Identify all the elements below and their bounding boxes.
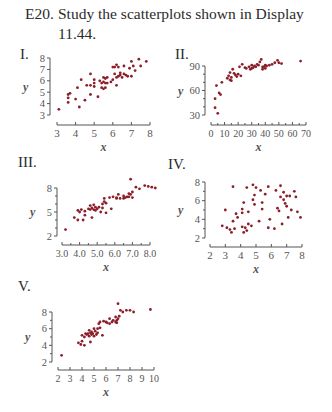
data-point [267, 185, 270, 188]
data-point [132, 311, 135, 314]
scatterplot-ii: 306090y010203040506070x [176, 58, 311, 154]
data-point [78, 106, 81, 109]
data-point [129, 178, 132, 181]
data-point [216, 112, 219, 115]
y-tick-label: 3 [40, 110, 45, 121]
y-tick-label: 4 [40, 98, 46, 109]
data-point [115, 197, 118, 200]
data-point [88, 329, 91, 332]
y-axis-label: y [176, 84, 184, 98]
x-tick-label: 4 [238, 249, 244, 261]
data-point [99, 326, 102, 329]
x-tick-label: 30 [247, 128, 257, 139]
scatterplot-iii: 258y3.04.05.06.07.08.0x [28, 178, 157, 274]
y-axis-label: y [176, 203, 184, 217]
data-point [111, 78, 114, 81]
data-point [106, 76, 109, 79]
data-point [119, 74, 122, 77]
data-point [119, 197, 122, 200]
data-point [230, 231, 233, 234]
data-point [230, 76, 233, 79]
data-point [67, 101, 70, 104]
data-point [81, 334, 84, 337]
data-point [93, 335, 96, 338]
data-points [214, 58, 302, 115]
data-point [293, 190, 296, 193]
data-point [241, 211, 244, 214]
data-point [268, 64, 271, 67]
data-point [252, 183, 255, 186]
data-point [112, 195, 115, 198]
data-point [113, 66, 116, 69]
data-point [241, 63, 244, 66]
data-point [93, 85, 96, 88]
data-point [253, 203, 256, 206]
data-point [139, 65, 142, 68]
data-point [241, 208, 244, 211]
data-point [268, 218, 271, 221]
y-tick-label: 7 [40, 64, 45, 75]
data-point [92, 203, 95, 206]
data-point [103, 197, 106, 200]
x-tick-label: 6 [269, 249, 275, 261]
data-point [219, 93, 222, 96]
data-point [143, 184, 146, 187]
data-point [296, 210, 299, 213]
x-tick-label: 7 [129, 127, 135, 139]
x-tick-label: 10 [220, 128, 230, 139]
data-point [67, 97, 70, 100]
data-point [91, 332, 94, 335]
data-point [271, 63, 274, 66]
data-point [108, 322, 111, 325]
data-point [229, 228, 232, 231]
data-point [245, 229, 248, 232]
data-point [214, 106, 217, 109]
x-axis: 2345678x [207, 244, 305, 276]
data-point [248, 65, 251, 68]
y-tick-label: 2 [42, 357, 47, 368]
data-point [115, 321, 118, 324]
data-point [258, 220, 261, 223]
data-points [221, 183, 302, 233]
data-point [150, 186, 153, 189]
x-axis-label: x [102, 260, 109, 274]
data-point [276, 207, 279, 210]
data-point [154, 187, 157, 190]
data-point [245, 67, 248, 70]
data-point [98, 206, 101, 209]
y-tick-label: 90 [190, 61, 201, 72]
data-point [60, 354, 63, 357]
data-point [226, 77, 229, 80]
data-point [235, 75, 238, 78]
data-point [254, 65, 257, 68]
data-point [115, 84, 118, 87]
y-tick-label: 8 [42, 307, 47, 318]
data-point [105, 202, 108, 205]
data-point [232, 185, 235, 188]
data-point [261, 208, 264, 211]
x-axis: 2345678910x [56, 367, 160, 399]
data-point [64, 228, 67, 231]
data-point [225, 226, 228, 229]
data-point [96, 331, 99, 334]
data-point [88, 335, 91, 338]
data-point [106, 321, 109, 324]
x-tick-label: 6 [104, 373, 109, 384]
data-point [105, 211, 108, 214]
data-point [123, 65, 126, 68]
data-point [126, 75, 129, 78]
x-axis: 010203040506070x [209, 122, 312, 154]
data-point [85, 84, 88, 87]
scatterplots-canvas: 345678y345678x 306090y010203040506070x 2… [0, 0, 332, 412]
data-point [101, 207, 104, 210]
data-point [285, 205, 288, 208]
data-point [247, 210, 250, 213]
data-point [237, 73, 240, 76]
x-tick-label: 10 [149, 373, 159, 384]
x-tick-label: 50 [274, 128, 284, 139]
data-point [108, 317, 111, 320]
data-point [99, 321, 102, 324]
x-tick-label: 9 [140, 373, 145, 384]
x-tick-label: 2 [56, 373, 61, 384]
data-point [89, 84, 92, 87]
